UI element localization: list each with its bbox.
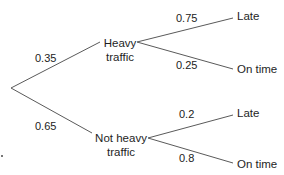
prob-notheavy-ontime: 0.8 [179,152,194,165]
node-heavy-traffic: Heavy traffic [102,36,138,64]
node-heavy-line1: Heavy [102,36,138,50]
prob-not-heavy: 0.65 [35,120,56,133]
prob-heavy-ontime: 0.25 [176,59,197,72]
node-not-heavy-line1: Not heavy [93,131,149,145]
node-not-heavy-traffic: Not heavy traffic [93,131,149,159]
leaf-heavy-ontime: On time [237,62,277,76]
leaf-notheavy-ontime: On time [237,157,277,171]
prob-heavy-late: 0.75 [176,12,197,25]
stray-mark [1,155,3,157]
leaf-notheavy-late: Late [237,106,259,120]
node-not-heavy-line2: traffic [93,145,149,159]
node-heavy-line2: traffic [102,50,138,64]
edge-root-heavy [11,42,100,88]
leaf-heavy-late: Late [237,9,259,23]
prob-notheavy-late: 0.2 [179,108,194,121]
prob-heavy: 0.35 [35,52,56,65]
